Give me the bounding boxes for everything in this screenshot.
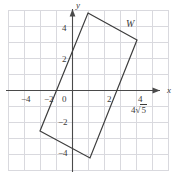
- x-tick-label-neg2: −2: [44, 95, 54, 104]
- figure-canvas: [0, 0, 179, 182]
- y-tick-label-neg4: −4: [58, 149, 68, 158]
- x-tick-label-neg4: −4: [21, 95, 31, 104]
- y-tick-label-4: 4: [62, 24, 67, 33]
- shape-label-w: W: [126, 19, 134, 29]
- x-axis-label: x: [167, 86, 171, 95]
- side-length-radicand: 5: [140, 104, 147, 115]
- radical-symbol: √5: [136, 106, 147, 115]
- y-axis-label: y: [76, 1, 80, 10]
- y-tick-label-2: 2: [62, 55, 67, 64]
- origin-label: 0: [62, 95, 67, 104]
- side-length-label: 4√5: [131, 106, 147, 115]
- x-tick-label-2: 2: [107, 95, 112, 104]
- x-tick-label-4: 4: [138, 95, 143, 104]
- y-tick-label-neg2: −2: [58, 118, 68, 127]
- coordinate-figure: x y 0 −4 −2 2 4 4 2 −2 −4 W 4√5: [0, 0, 179, 182]
- x-axis-arrow: [153, 88, 161, 94]
